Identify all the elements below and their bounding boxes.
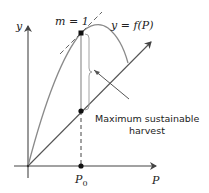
tangent-label: m = 1: [55, 15, 89, 28]
curve-f-of-p: [28, 25, 128, 166]
tangent-point: [79, 31, 84, 36]
diagonal-point: [78, 108, 83, 113]
p0-label: P0: [74, 173, 88, 188]
origin-point: [27, 165, 29, 167]
annotation-line1: Maximum sustainable: [95, 113, 199, 124]
harvest-bracket: [85, 34, 92, 110]
annotation-line2: harvest: [129, 125, 165, 136]
p0-point: [78, 163, 83, 168]
curve-label: y = f(P): [110, 19, 153, 32]
x-axis-label: P: [151, 174, 160, 187]
harvest-diagram: y P m = 1 y = f(P) P0 Maximum sustainabl…: [0, 0, 209, 193]
y-axis-label: y: [15, 20, 23, 33]
